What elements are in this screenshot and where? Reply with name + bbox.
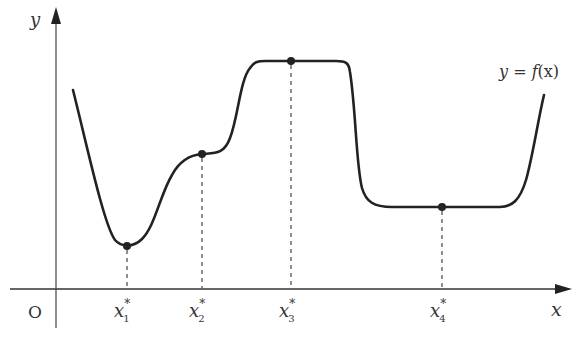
axes	[10, 7, 572, 328]
tick-x2-star: *	[199, 297, 205, 311]
point-x1	[123, 242, 131, 250]
dashed-guides	[127, 65, 442, 288]
tick-label-x2: x*2	[189, 297, 205, 324]
tick-x1-star: *	[124, 297, 130, 311]
tick-labels: x*1 x*2 x*3 x*4	[114, 297, 446, 324]
origin-label: O	[28, 302, 42, 322]
tick-x4-sub: 4	[439, 313, 445, 324]
eq-equals: =	[508, 62, 532, 81]
y-axis-label: y	[29, 9, 41, 30]
tick-x3-sub: 3	[288, 313, 294, 324]
tick-label-x4: x*4	[430, 297, 446, 324]
point-x2	[198, 150, 206, 158]
tick-x2-sub: 2	[198, 313, 204, 324]
y-axis-arrow-icon	[51, 7, 61, 24]
function-diagram: y x O y = f(x) x*1 x*2 x*3 x*4	[0, 0, 579, 348]
curve-equation-label: y = f(x)	[498, 62, 559, 81]
tick-label-x3: x*3	[279, 297, 295, 324]
critical-points	[123, 57, 446, 250]
x-axis-arrow-icon	[555, 284, 572, 294]
point-x3	[287, 57, 295, 65]
x-axis-label: x	[551, 298, 562, 320]
tick-label-x1: x*1	[114, 297, 130, 324]
point-x4	[438, 203, 446, 211]
function-curve	[73, 61, 544, 246]
tick-x3-star: *	[289, 297, 295, 311]
tick-x4-star: *	[440, 297, 446, 311]
tick-x1-sub: 1	[123, 313, 129, 324]
eq-arg: (x)	[538, 62, 560, 81]
